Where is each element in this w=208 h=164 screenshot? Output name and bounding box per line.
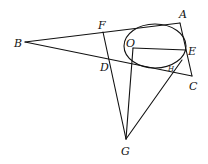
label-D: D xyxy=(99,61,109,74)
label-H: H xyxy=(167,65,175,73)
label-O: O xyxy=(126,37,135,50)
label-B: B xyxy=(13,37,22,50)
segment-FG xyxy=(103,32,126,139)
label-G: G xyxy=(121,145,130,158)
label-A: A xyxy=(178,8,187,21)
segment-OG xyxy=(126,48,133,139)
geometry-diagram: A B C D E F G O H xyxy=(0,0,208,164)
segment-OE xyxy=(133,48,186,50)
label-E: E xyxy=(187,45,196,58)
label-C: C xyxy=(189,80,198,93)
label-F: F xyxy=(97,19,106,32)
